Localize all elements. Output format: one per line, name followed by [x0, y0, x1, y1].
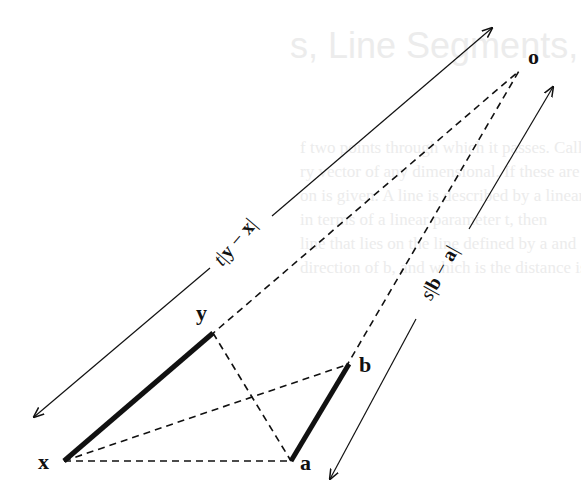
point-label-b: b	[359, 352, 371, 377]
segment-x-y	[64, 333, 213, 461]
point-label-y: y	[196, 300, 207, 325]
length-label-s-b-minus-a: s|b − a|	[415, 242, 463, 304]
point-label-o: o	[528, 44, 539, 69]
length-label-t-y-minus-x: t|y − x|	[209, 213, 262, 270]
dashed-line-x-to-b	[64, 364, 349, 461]
arrow-right-upper	[469, 87, 553, 229]
arrow-right-lower	[330, 319, 416, 479]
line-segment-diagram: o x y a b t|y − x| s|b − a|	[0, 0, 581, 499]
dashed-line-y-to-a	[213, 333, 291, 461]
point-label-x: x	[38, 449, 49, 474]
segment-a-b	[291, 364, 349, 461]
diagram-page: s, Line Segments, and Polygons f two poi…	[0, 0, 581, 499]
point-label-a: a	[300, 450, 311, 475]
arrow-left-lower	[34, 268, 210, 417]
